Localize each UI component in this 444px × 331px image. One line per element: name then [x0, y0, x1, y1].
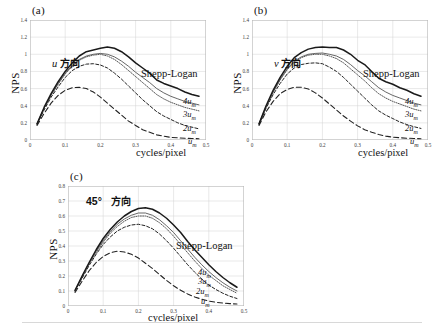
x-tick-label: 0 [58, 308, 78, 314]
panel-a-chart [30, 20, 206, 140]
panel-c-tag: (c) [70, 170, 83, 182]
y-tick-label: 0.3 [46, 258, 65, 264]
y-tick-label: 0.4 [8, 103, 27, 109]
y-tick-label: 0.1 [46, 288, 65, 294]
y-tick-label: 1 [8, 51, 27, 57]
y-tick-label: 0.2 [230, 120, 249, 126]
y-tick-label: 1 [230, 51, 249, 57]
y-tick-label: 1.4 [8, 17, 27, 23]
panel-a-plot-area [30, 20, 206, 140]
panel-c-direction-word: 方向 [111, 196, 131, 207]
y-tick-label: 0.2 [46, 273, 65, 279]
panel-a-direction-label: u 方向 [52, 55, 80, 70]
panel-a-xlabel: cycles/pixel [136, 147, 186, 158]
x-tick-label: 0.5 [234, 308, 254, 314]
y-tick-label: 1.2 [230, 34, 249, 40]
panel-b-xlabel: cycles/pixel [358, 147, 408, 158]
y-tick-label: 0.8 [46, 183, 65, 189]
x-tick-label: 0.2 [312, 142, 332, 148]
x-tick-label: 0.3 [164, 308, 184, 314]
x-tick-label: 0.1 [55, 142, 75, 148]
y-tick-label: 0.7 [46, 198, 65, 204]
panel-c-shepp-logan-label: Shepp-Logan [176, 240, 233, 251]
bottom-divider [22, 322, 422, 323]
x-tick-label: 0.2 [90, 142, 110, 148]
y-tick-label: 0.2 [8, 120, 27, 126]
x-tick-label: 0.2 [128, 308, 148, 314]
panel-a-curve-label-3um: 3um [183, 109, 196, 121]
y-tick-label: 0.6 [8, 86, 27, 92]
x-tick-label: 0.3 [126, 142, 146, 148]
x-tick-label: 0.4 [161, 142, 181, 148]
y-tick-label: 0.6 [46, 213, 65, 219]
series-line [75, 213, 237, 291]
panel-b-direction-symbol: v [274, 58, 279, 69]
y-tick-label: 1.2 [8, 34, 27, 40]
panel-b-direction-label: v 方向 [274, 55, 301, 70]
panel-c-direction-label: 45° 方向 [86, 193, 131, 208]
y-tick-label: 0.8 [230, 68, 249, 74]
x-tick-label: 0.5 [196, 142, 216, 148]
x-tick-label: 0.1 [277, 142, 297, 148]
y-tick-label: 0.5 [46, 228, 65, 234]
y-tick-label: 0.4 [230, 103, 249, 109]
y-tick-label: 0.6 [230, 86, 249, 92]
series-line [75, 224, 237, 298]
x-tick-label: 0.3 [348, 142, 368, 148]
panel-b-plot-area [252, 20, 428, 140]
panel-a-shepp-logan-label: Shepp-Logan [141, 68, 198, 79]
panel-c-curve-label-um: um [201, 296, 210, 308]
x-tick-label: 0 [20, 142, 40, 148]
panel-b: (b) NPS v 方向 Shepp-Logan 4um 3um 2um um … [222, 0, 444, 166]
panel-b-direction-word: 方向 [281, 58, 301, 69]
panel-c-direction-symbol: 45° [86, 195, 102, 207]
x-tick-label: 0.1 [93, 308, 113, 314]
x-tick-label: 0.5 [418, 142, 438, 148]
nps-figure: (a) NPS u 方向 Shepp-Logan 4um 3um 2um um … [0, 0, 444, 331]
panel-a: (a) NPS u 方向 Shepp-Logan 4um 3um 2um um … [0, 0, 222, 166]
panel-a-curve-label-4um: 4um [183, 96, 196, 108]
panel-a-tag: (a) [32, 4, 45, 16]
panel-b-chart [252, 20, 428, 140]
panel-a-direction-symbol: u [52, 58, 57, 69]
panel-c: (c) NPS 45° 方向 Shepp-Logan 4um 3um 2um u… [38, 166, 260, 331]
panel-b-curve-label-2um: 2um [405, 123, 418, 135]
panel-b-shepp-logan-label: Shepp-Logan [363, 68, 420, 79]
x-tick-label: 0.4 [383, 142, 403, 148]
panel-a-curve-label-2um: 2um [183, 123, 196, 135]
panel-b-curve-label-4um: 4um [405, 96, 418, 108]
y-tick-label: 0.4 [46, 243, 65, 249]
series-line [75, 216, 237, 293]
panel-a-direction-word: 方向 [60, 58, 80, 69]
x-tick-label: 0.4 [199, 308, 219, 314]
x-tick-label: 0 [242, 142, 262, 148]
panel-b-tag: (b) [254, 4, 267, 16]
y-tick-label: 1.4 [230, 17, 249, 23]
y-tick-label: 0.8 [8, 68, 27, 74]
series-line [37, 87, 199, 138]
series-line [259, 87, 421, 138]
panel-b-curve-label-3um: 3um [405, 109, 418, 121]
